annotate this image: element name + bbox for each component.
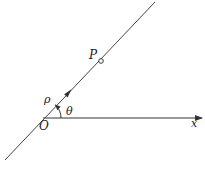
ray-line <box>5 2 155 160</box>
theta-label: θ <box>66 105 73 118</box>
polar-coordinate-diagram: P ρ θ O x <box>0 0 205 169</box>
origin-label: O <box>39 119 49 133</box>
x-axis-label: x <box>191 117 198 130</box>
point-p-label: P <box>88 48 98 62</box>
rho-label: ρ <box>43 93 51 106</box>
point-p-marker <box>99 59 104 64</box>
angle-arc <box>56 105 62 118</box>
